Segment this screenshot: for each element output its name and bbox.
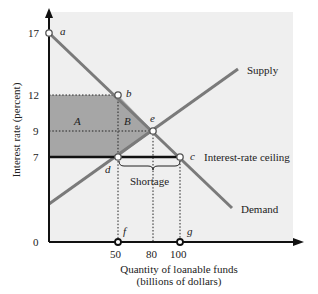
region-a xyxy=(49,95,118,157)
y-tick-0: 0 xyxy=(33,236,39,248)
ceiling-label: Interest-rate ceiling xyxy=(204,151,290,163)
region-a-label: A xyxy=(73,115,81,127)
y-tick-17: 17 xyxy=(28,27,40,39)
x-axis-subtitle: (billions of dollars) xyxy=(137,275,222,288)
y-tick-9: 9 xyxy=(33,125,39,137)
y-tick-7: 7 xyxy=(33,151,39,163)
y-axis-title: Interest rate (percent) xyxy=(10,82,23,177)
point-g-label: g xyxy=(187,225,193,237)
x-axis-title: Quantity of loanable funds xyxy=(120,263,238,275)
supply-label: Supply xyxy=(247,64,279,76)
y-tick-12: 12 xyxy=(28,89,39,101)
x-axis-arrow-icon xyxy=(293,238,304,246)
demand-label: Demand xyxy=(241,203,279,215)
shortage-label: Shortage xyxy=(130,175,169,187)
point-d-label: d xyxy=(105,163,111,175)
point-e-label: e xyxy=(150,112,155,124)
x-tick-50: 50 xyxy=(110,248,122,260)
point-c-label: c xyxy=(190,150,195,162)
loanable-funds-chart: 17 12 9 7 0 50 80 100 Quantity of loanab… xyxy=(0,0,318,294)
point-a-label: a xyxy=(60,25,66,37)
point-b-label: b xyxy=(126,87,132,99)
region-b-label: B xyxy=(124,115,131,127)
x-tick-80: 80 xyxy=(146,248,158,260)
x-tick-100: 100 xyxy=(170,248,187,260)
